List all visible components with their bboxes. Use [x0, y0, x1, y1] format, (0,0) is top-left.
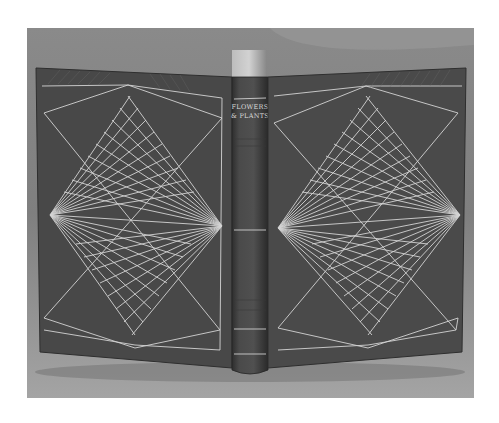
front-board: [36, 68, 232, 368]
back-board: [268, 68, 466, 368]
book-photograph: FLOWERS & PLANTS: [27, 28, 474, 398]
spine: FLOWERS & PLANTS: [231, 77, 269, 374]
page-edges: [232, 50, 266, 78]
book-scene: FLOWERS & PLANTS: [27, 28, 474, 398]
spine-title-line-1: FLOWERS: [231, 103, 268, 111]
spine-title-line-2: & PLANTS: [231, 112, 269, 120]
